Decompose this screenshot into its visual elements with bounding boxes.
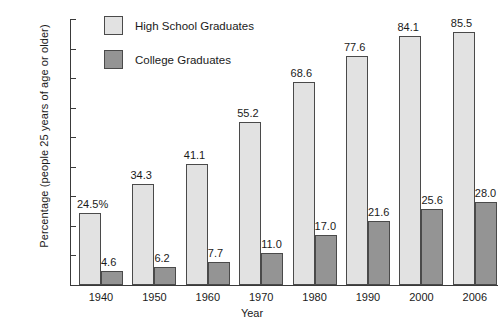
bar-high-school[interactable] [186, 164, 208, 285]
legend-swatch-high-school [104, 16, 123, 35]
bar-value-label-college: 17.0 [315, 221, 336, 232]
bar-high-school[interactable] [239, 122, 261, 285]
bar-high-school[interactable] [346, 56, 368, 285]
bar-high-school[interactable] [132, 184, 154, 285]
bar-group: 85.528.0 [453, 19, 497, 285]
bar-high-school[interactable] [293, 82, 315, 285]
bar-value-label-college: 7.7 [208, 248, 223, 259]
x-axis-line [70, 285, 498, 286]
bar-high-school[interactable] [399, 36, 421, 285]
x-axis-tick-label: 1970 [231, 291, 291, 303]
x-axis-tick-label: 1990 [338, 291, 398, 303]
bar-value-label-college: 11.0 [261, 239, 282, 250]
bar-college[interactable] [101, 271, 123, 285]
chart-legend: High School Graduates College Graduates [104, 16, 254, 84]
bar-college[interactable] [208, 262, 230, 285]
bar-value-label-high-school: 68.6 [291, 68, 312, 79]
bar-group: 77.621.6 [346, 19, 390, 285]
bar-value-label-high-school: 55.2 [237, 108, 258, 119]
bar-high-school[interactable] [79, 213, 101, 285]
bar-chart: Percentage (people 25 years of age or ol… [0, 0, 504, 325]
bar-college[interactable] [475, 202, 497, 285]
bar-college[interactable] [368, 221, 390, 285]
legend-label-college: College Graduates [135, 54, 231, 66]
bar-value-label-high-school: 85.5 [451, 18, 472, 29]
bar-college[interactable] [154, 267, 176, 285]
y-axis-ticks: 0102030405060708090% [0, 0, 80, 325]
bar-value-label-high-school: 34.3 [130, 170, 151, 181]
bar-value-label-college: 4.6 [101, 257, 116, 268]
bar-value-label-college: 28.0 [475, 188, 496, 199]
bar-value-label-high-school: 41.1 [184, 150, 205, 161]
bar-value-label-high-school: 24.5% [77, 199, 108, 210]
x-axis-tick-label: 2000 [391, 291, 451, 303]
legend-item-college: College Graduates [104, 50, 254, 69]
bar-value-label-college: 6.2 [154, 253, 169, 264]
bar-college[interactable] [261, 253, 283, 286]
legend-swatch-college [104, 50, 123, 69]
bar-college[interactable] [421, 209, 443, 285]
x-axis-tick-label: 2006 [445, 291, 504, 303]
bar-group: 84.125.6 [399, 19, 443, 285]
bar-value-label-high-school: 77.6 [344, 42, 365, 53]
bar-college[interactable] [315, 235, 337, 285]
x-axis-tick-label: 1960 [178, 291, 238, 303]
x-axis-tick-label: 1940 [71, 291, 131, 303]
bar-value-label-college: 25.6 [421, 195, 442, 206]
bar-group: 68.617.0 [293, 19, 337, 285]
bar-high-school[interactable] [453, 32, 475, 285]
x-axis-tick-label: 1950 [124, 291, 184, 303]
legend-label-high-school: High School Graduates [135, 20, 254, 32]
bar-value-label-college: 21.6 [368, 207, 389, 218]
legend-item-high-school: High School Graduates [104, 16, 254, 35]
x-axis-tick-label: 1980 [285, 291, 345, 303]
x-axis-title: Year [0, 307, 504, 319]
bar-value-label-high-school: 84.1 [397, 22, 418, 33]
